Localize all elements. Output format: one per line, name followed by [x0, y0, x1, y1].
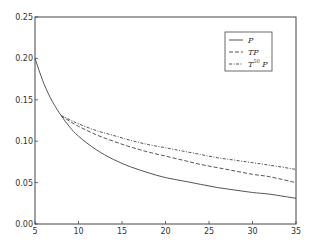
x-tick-label: 35	[291, 227, 301, 236]
x-tick-label: 20	[160, 227, 170, 236]
line-chart: 5101520253035 0.000.050.100.150.200.25 P…	[0, 0, 316, 247]
legend-label-t50p-tail: P	[260, 60, 269, 69]
x-tick-label: 30	[247, 227, 257, 236]
legend-label-tp: TP	[248, 48, 259, 57]
x-tick-label: 10	[73, 227, 83, 236]
x-tick-label: 25	[204, 227, 214, 236]
x-tick-label: 15	[117, 227, 127, 236]
series-line-2	[61, 116, 296, 170]
plot-lines	[35, 58, 296, 198]
y-tick-label: 0.00	[15, 220, 33, 229]
y-tick-label: 0.10	[15, 137, 33, 146]
y-tick-label: 0.15	[15, 96, 33, 105]
legend-label-p: P	[247, 36, 254, 45]
series-line-0	[35, 58, 296, 198]
y-tick-label: 0.20	[15, 54, 33, 63]
x-axis: 5101520253035	[32, 221, 301, 236]
x-tick-label: 5	[32, 227, 37, 236]
legend: P TP T50 P	[225, 32, 272, 71]
y-tick-label: 0.05	[15, 179, 33, 188]
series-line-1	[61, 116, 296, 183]
y-tick-label: 0.25	[15, 13, 33, 22]
